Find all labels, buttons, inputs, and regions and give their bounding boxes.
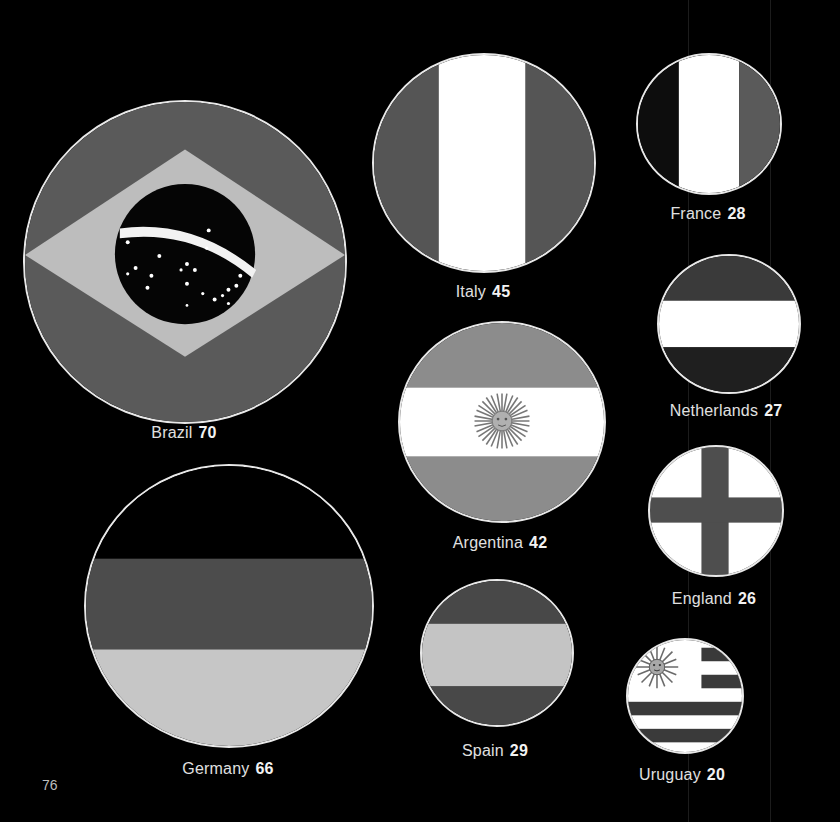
country-name: Brazil [151, 424, 192, 441]
country-name: Netherlands [670, 402, 758, 419]
label-england: England26 [672, 590, 756, 608]
flag-germany [84, 464, 374, 748]
country-value: 42 [529, 534, 547, 551]
flag-argentina [398, 321, 606, 523]
country-value: 45 [492, 283, 510, 300]
brazil-flag-icon [25, 102, 345, 422]
country-name: France [670, 205, 721, 222]
country-name: England [672, 590, 732, 607]
flag-brazil [23, 100, 347, 424]
label-spain: Spain29 [462, 742, 528, 760]
country-value: 28 [727, 205, 745, 222]
country-value: 70 [199, 424, 217, 441]
flag-england [648, 445, 784, 577]
country-value: 66 [256, 760, 274, 777]
label-germany: Germany66 [182, 760, 273, 778]
country-name: Argentina [453, 534, 523, 551]
label-france: France28 [670, 205, 745, 223]
flag-italy [372, 53, 596, 273]
label-brazil: Brazil70 [151, 424, 216, 442]
country-name: Uruguay [639, 766, 701, 783]
france-flag-icon [638, 55, 780, 193]
country-name: Germany [182, 760, 249, 777]
uruguay-flag-icon [628, 640, 742, 752]
label-italy: Italy45 [456, 283, 511, 301]
germany-flag-icon [86, 466, 372, 746]
flag-france [636, 53, 782, 195]
flag-spain [420, 579, 574, 727]
italy-flag-icon [374, 55, 594, 271]
country-value: 20 [707, 766, 725, 783]
argentina-flag-icon [400, 323, 604, 521]
country-value: 27 [764, 402, 782, 419]
country-name: Italy [456, 283, 486, 300]
spain-flag-icon [422, 581, 572, 725]
country-name: Spain [462, 742, 504, 759]
england-flag-icon [650, 447, 782, 575]
country-value: 26 [738, 590, 756, 607]
label-netherlands: Netherlands27 [670, 402, 783, 420]
flag-netherlands [657, 254, 801, 394]
flag-uruguay [626, 638, 744, 754]
label-uruguay: Uruguay20 [639, 766, 725, 784]
netherlands-flag-icon [659, 256, 799, 392]
label-argentina: Argentina42 [453, 534, 548, 552]
page-number: 76 [42, 777, 58, 793]
country-value: 29 [510, 742, 528, 759]
